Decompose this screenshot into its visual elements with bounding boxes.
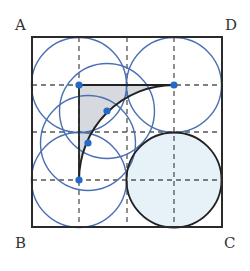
vertex-label-b: B xyxy=(15,236,26,251)
vertex-label-c: C xyxy=(224,236,235,251)
diagram-canvas xyxy=(0,0,250,271)
vertex-label-d: D xyxy=(225,18,237,33)
dot-bottom-left-center xyxy=(75,176,82,183)
dot-top-right-center xyxy=(170,81,177,88)
dot-arc-lower xyxy=(84,139,91,146)
dot-arc-upper xyxy=(103,107,110,114)
vertex-label-a: A xyxy=(15,18,26,33)
geometry-figure: A D B C xyxy=(0,0,250,271)
dot-top-left-center xyxy=(75,81,82,88)
